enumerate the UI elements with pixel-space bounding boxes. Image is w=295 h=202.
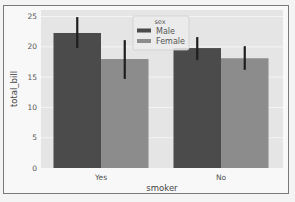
y-tick-label: 20 (27, 42, 37, 51)
y-tick-label: 15 (27, 73, 37, 82)
bar-male-yes (54, 33, 102, 168)
legend-patch-female (137, 39, 151, 43)
legend-label-female: Female (156, 37, 185, 46)
y-tick-label: 0 (32, 164, 37, 173)
x-axis-label: smoker (146, 183, 178, 193)
y-tick-label: 10 (27, 103, 37, 112)
y-axis-label: total_bill (9, 71, 19, 107)
legend-patch-male (137, 29, 151, 33)
y-tick-label: 25 (27, 12, 37, 21)
x-tick-label: No (216, 173, 227, 182)
bar-female-no (221, 58, 269, 168)
x-tick-label: Yes (94, 173, 107, 182)
legend-title: sex (154, 18, 165, 26)
bar-male-no (174, 48, 222, 168)
y-tick-label: 5 (32, 133, 37, 142)
bar-chart: 0510152025YesNosmokertotal_billsexMaleFe… (0, 0, 295, 202)
legend-label-male: Male (156, 27, 175, 36)
